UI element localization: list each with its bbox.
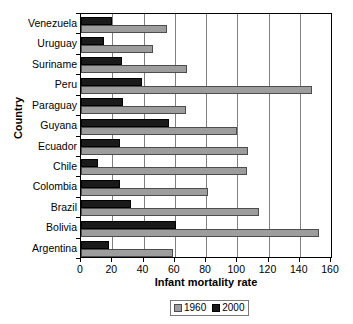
bar-1960	[81, 127, 237, 135]
bar-1960	[81, 188, 208, 196]
y-tick	[76, 136, 80, 137]
bar-2000	[81, 200, 131, 208]
y-axis-label-colombia: Colombia	[14, 181, 77, 192]
y-tick	[76, 197, 80, 198]
x-axis-title: Infant mortality rate	[80, 276, 332, 288]
gridline	[300, 14, 301, 257]
bar-2000	[81, 119, 169, 127]
bar-1960	[81, 45, 153, 53]
x-tick-label-160: 160	[310, 263, 350, 275]
legend-swatch-2000	[212, 304, 220, 312]
y-axis-label-peru: Peru	[14, 79, 77, 90]
gridline	[206, 14, 207, 257]
y-axis-label-suriname: Suriname	[14, 59, 77, 70]
gridline	[269, 14, 270, 257]
x-tick	[236, 258, 237, 262]
y-axis-category-labels: VenezuelaUruguaySurinamePeruParaguayGuya…	[14, 13, 77, 258]
x-tick	[299, 258, 300, 262]
y-axis-label-chile: Chile	[14, 161, 77, 172]
y-axis-ticks	[76, 13, 80, 258]
bar-2000	[81, 37, 104, 45]
y-tick	[76, 13, 80, 14]
legend-label-1960: 1960	[184, 302, 206, 314]
bar-1960	[81, 65, 187, 73]
y-axis-label-venezuela: Venezuela	[14, 18, 77, 29]
y-axis-label-ecuador: Ecuador	[14, 141, 77, 152]
bar-2000	[81, 180, 120, 188]
bar-2000	[81, 78, 142, 86]
legend-entry-2000: 2000	[212, 302, 244, 314]
x-tick	[80, 258, 81, 262]
gridline	[237, 14, 238, 257]
y-axis-label-brazil: Brazil	[14, 202, 77, 213]
bar-1960	[81, 249, 173, 257]
bar-1960	[81, 229, 319, 237]
x-axis-ticks: 020406080100120140160	[80, 258, 332, 263]
bar-2000	[81, 98, 123, 106]
bar-2000	[81, 57, 122, 65]
bar-1960	[81, 86, 312, 94]
legend-swatch-1960	[174, 304, 182, 312]
legend-label-2000: 2000	[222, 302, 244, 314]
bar-2000	[81, 221, 176, 229]
y-tick	[76, 217, 80, 218]
bar-2000	[81, 241, 109, 249]
y-tick	[76, 238, 80, 239]
y-tick	[76, 176, 80, 177]
bar-1960	[81, 208, 259, 216]
legend-entry-1960: 1960	[174, 302, 206, 314]
y-axis-label-argentina: Argentina	[14, 243, 77, 254]
y-axis-label-uruguay: Uruguay	[14, 38, 77, 49]
y-tick	[76, 74, 80, 75]
x-tick	[268, 258, 269, 262]
x-tick	[174, 258, 175, 262]
plot-area	[80, 13, 332, 258]
x-tick	[205, 258, 206, 262]
y-tick	[76, 33, 80, 34]
y-tick	[76, 115, 80, 116]
y-tick	[76, 156, 80, 157]
bar-1960	[81, 25, 167, 33]
chart-legend: 19602000	[170, 300, 249, 316]
bar-1960	[81, 106, 186, 114]
infant-mortality-bar-chart: Country VenezuelaUruguaySurinamePeruPara…	[0, 0, 353, 324]
bar-1960	[81, 147, 248, 155]
bar-2000	[81, 139, 120, 147]
bar-2000	[81, 159, 98, 167]
y-axis-label-guyana: Guyana	[14, 120, 77, 131]
y-axis-label-bolivia: Bolivia	[14, 222, 77, 233]
bar-1960	[81, 167, 247, 175]
bar-2000	[81, 17, 112, 25]
y-tick	[76, 54, 80, 55]
x-tick	[330, 258, 331, 262]
x-tick	[111, 258, 112, 262]
y-axis-label-paraguay: Paraguay	[14, 100, 77, 111]
y-tick	[76, 95, 80, 96]
x-tick	[143, 258, 144, 262]
